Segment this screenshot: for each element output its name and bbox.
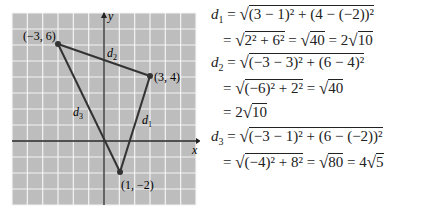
- coordinate-graph: x y (−3, 6) (3, 4) (1, −2) d1 d2 d3: [0, 0, 200, 210]
- point-a: [55, 41, 61, 47]
- point-b: [147, 73, 153, 79]
- y-axis-label: y: [107, 9, 114, 23]
- equation-d3: d3 = √(−3 − 1)² + (6 − (−2))²: [211, 126, 383, 148]
- point-a-label: (−3, 6): [23, 29, 56, 43]
- point-c-label: (1, −2): [121, 178, 154, 192]
- equation-d1-simplified: = √2² + 6² = √40 = 2√10: [223, 30, 373, 50]
- equation-d3-simplified: = √(−4)² + 8² = √80 = 4√5: [223, 152, 384, 172]
- equation-d2: d2 = √(−3 − 3)² + (6 − 4)²: [211, 52, 364, 74]
- point-c: [117, 169, 123, 175]
- point-b-label: (3, 4): [154, 70, 180, 84]
- x-axis-label: x: [191, 143, 198, 157]
- equation-d2-result: = 2√10: [223, 102, 267, 122]
- equation-d1: d1 = √(3 − 1)² + (4 − (−2))²: [211, 4, 374, 26]
- equation-d2-simplified: = √(−6)² + 2² = √40: [223, 78, 343, 98]
